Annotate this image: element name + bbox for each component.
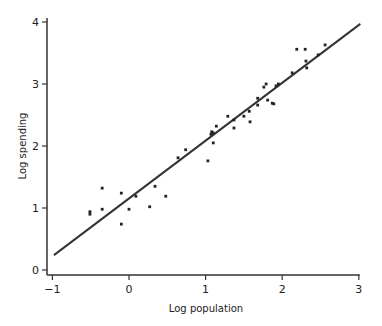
data-point xyxy=(101,187,104,190)
data-point xyxy=(291,71,294,74)
data-point xyxy=(256,97,259,100)
data-point xyxy=(89,213,92,216)
data-point xyxy=(305,60,308,63)
data-point xyxy=(134,195,137,198)
y-axis-label: Log spending xyxy=(17,113,28,180)
x-tick-label: 0 xyxy=(126,283,133,296)
x-tick-label: 3 xyxy=(355,283,362,296)
data-point xyxy=(128,208,131,211)
data-point xyxy=(317,53,320,56)
data-point xyxy=(101,208,104,211)
data-point xyxy=(89,210,92,213)
data-point xyxy=(177,156,180,159)
data-point xyxy=(154,185,157,188)
data-point xyxy=(206,159,209,162)
data-point xyxy=(249,120,252,123)
x-tick-label: 1 xyxy=(202,283,209,296)
data-point xyxy=(277,83,280,86)
data-point xyxy=(164,195,167,198)
x-tick-label: −1 xyxy=(44,283,60,296)
data-point xyxy=(262,86,265,89)
data-points xyxy=(89,44,327,226)
data-point xyxy=(266,99,269,102)
data-point xyxy=(243,115,246,118)
data-point xyxy=(265,83,268,86)
data-point xyxy=(120,192,123,195)
data-point xyxy=(184,148,187,151)
data-point xyxy=(215,125,218,128)
axes xyxy=(47,18,360,275)
data-point xyxy=(305,66,308,69)
scatter-chart: −10123 01234 Log population Log spending xyxy=(0,0,382,326)
y-tick-label: 1 xyxy=(32,202,39,215)
data-point xyxy=(304,48,307,51)
y-tick-label: 3 xyxy=(32,78,39,91)
y-tick-label: 2 xyxy=(32,140,39,153)
data-point xyxy=(212,142,215,145)
data-point xyxy=(212,132,215,135)
y-tick-labels: 01234 xyxy=(32,16,39,277)
data-point xyxy=(120,223,123,226)
data-point xyxy=(148,205,151,208)
data-point xyxy=(248,110,251,113)
data-point xyxy=(272,102,275,105)
data-point xyxy=(324,44,327,47)
data-point xyxy=(295,48,298,51)
regression-line xyxy=(54,24,360,255)
data-point xyxy=(233,127,236,130)
data-point xyxy=(233,119,236,122)
y-tick-label: 0 xyxy=(32,264,39,277)
data-point xyxy=(256,104,259,107)
x-axis-label: Log population xyxy=(169,303,243,314)
x-tick-labels: −10123 xyxy=(44,283,362,296)
x-tick-label: 2 xyxy=(279,283,286,296)
y-tick-label: 4 xyxy=(32,16,39,29)
data-point xyxy=(226,115,229,118)
